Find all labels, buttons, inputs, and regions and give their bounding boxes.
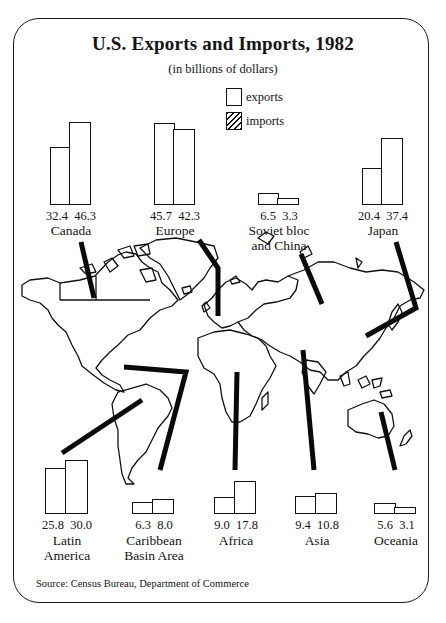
label-africa: Africa	[200, 533, 272, 548]
bar-oceania-imports	[394, 507, 416, 514]
value-europe-exports: 45.7	[150, 209, 172, 223]
bar-caribbean-exports	[132, 502, 154, 514]
label-canada: Canada	[36, 223, 106, 238]
leader-line-caribbean	[124, 367, 186, 470]
value-oceania-exports: 5.6	[377, 518, 393, 532]
values-latin-america: 25.8 30.0	[31, 518, 103, 533]
value-japan-imports: 37.4	[386, 209, 408, 223]
leader-line-latin-america	[62, 400, 142, 453]
bar-asia-imports	[315, 493, 337, 514]
value-japan-exports: 20.4	[358, 209, 380, 223]
values-europe: 45.7 42.3	[140, 209, 210, 224]
values-africa: 9.0 17.8	[200, 518, 272, 533]
bar-latin-america-exports	[45, 468, 67, 514]
leader-line-canada	[81, 242, 94, 298]
south-america-outline	[112, 384, 172, 484]
value-latin-america-exports: 25.8	[42, 518, 64, 532]
bar-japan-exports	[362, 168, 383, 205]
value-africa-imports: 17.8	[236, 518, 258, 532]
leader-line-africa	[235, 372, 237, 470]
value-latin-america-imports: 30.0	[70, 518, 92, 532]
bar-africa-exports	[214, 497, 236, 514]
values-oceania: 5.6 3.1	[360, 518, 432, 533]
label-soviet-china-line1: Soviet bloc	[234, 223, 324, 238]
label-caribbean-line2: Basin Area	[108, 548, 200, 563]
values-caribbean: 6.3 8.0	[118, 518, 190, 533]
bar-soviet-china-exports	[258, 193, 279, 205]
bar-caribbean-imports	[152, 499, 174, 514]
bar-europe-exports	[154, 123, 175, 205]
bar-latin-america-imports	[65, 460, 88, 514]
values-soviet-china: 6.5 3.3	[244, 209, 314, 224]
value-europe-imports: 42.3	[178, 209, 200, 223]
value-africa-exports: 9.0	[214, 518, 230, 532]
bar-oceania-exports	[374, 503, 396, 514]
value-oceania-imports: 3.1	[399, 518, 415, 532]
label-soviet-china-line2: and China	[234, 238, 324, 253]
label-latin-america-line1: Latin	[31, 533, 103, 548]
bar-canada-imports	[69, 122, 91, 205]
label-europe: Europe	[140, 223, 210, 238]
bar-japan-imports	[381, 138, 403, 205]
bar-asia-exports	[295, 496, 317, 514]
leader-line-japan	[366, 242, 416, 336]
value-canada-exports: 32.4	[46, 209, 68, 223]
value-asia-exports: 9.4	[295, 518, 311, 532]
bar-europe-imports	[173, 129, 195, 205]
bar-canada-exports	[50, 147, 71, 205]
values-japan: 20.4 37.4	[348, 209, 418, 224]
values-canada: 32.4 46.3	[36, 209, 106, 224]
bar-africa-imports	[234, 481, 256, 514]
value-canada-imports: 46.3	[74, 209, 96, 223]
value-caribbean-exports: 6.3	[135, 518, 151, 532]
label-asia: Asia	[281, 533, 353, 548]
value-caribbean-imports: 8.0	[157, 518, 173, 532]
label-caribbean-line1: Caribbean	[108, 533, 200, 548]
label-latin-america-line2: America	[31, 548, 103, 563]
values-asia: 9.4 10.8	[281, 518, 353, 533]
value-asia-imports: 10.8	[317, 518, 339, 532]
bar-soviet-china-imports	[277, 198, 299, 205]
value-soviet-china-imports: 3.3	[282, 209, 298, 223]
source-note: Source: Census Bureau, Department of Com…	[36, 578, 249, 589]
value-soviet-china-exports: 6.5	[260, 209, 276, 223]
label-oceania: Oceania	[360, 533, 432, 548]
label-japan: Japan	[348, 223, 418, 238]
